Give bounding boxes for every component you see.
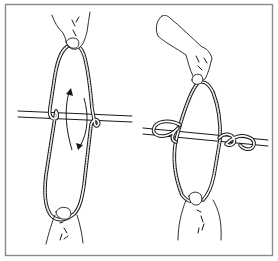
illustration-frame: [6, 5, 273, 256]
knot-illustration: [0, 0, 278, 261]
horizontal-bar-left: [18, 111, 132, 122]
illustration-canvas: [0, 0, 278, 261]
right-panel: [143, 15, 268, 240]
top-hand-right: [156, 15, 212, 84]
rope-loop-right: [174, 82, 220, 201]
bottom-hand-left: [46, 207, 83, 244]
arrow-down-icon: [80, 98, 87, 146]
left-panel: [18, 12, 132, 244]
rope-loop-left: [45, 44, 99, 220]
arrow-up-icon: [66, 92, 72, 150]
top-hand-left: [52, 12, 90, 49]
